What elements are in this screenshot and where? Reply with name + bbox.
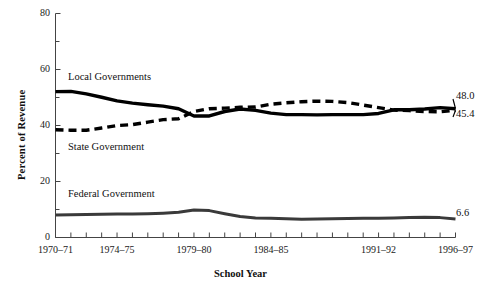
- chart-container: Percent of Revenue School Year 806040200…: [0, 0, 488, 293]
- data-series-lines: [56, 91, 456, 219]
- series-label-state: State Government: [68, 141, 144, 152]
- x-tick-label: 1996–97: [430, 244, 482, 255]
- axis-lines: [56, 14, 456, 238]
- end-value-federal: 6.6: [456, 207, 469, 218]
- y-axis-title: Percent of Revenue: [16, 90, 27, 180]
- end-value-local: 48.0: [456, 90, 474, 101]
- y-tick-label: 0: [24, 231, 50, 242]
- x-tick-label: 1991–92: [353, 244, 405, 255]
- y-tick-label: 80: [24, 7, 50, 18]
- y-tick-label: 40: [24, 119, 50, 130]
- y-tick-label: 60: [24, 63, 50, 74]
- x-tick-label: 1979–80: [168, 244, 220, 255]
- series-label-local: Local Governments: [68, 71, 151, 82]
- y-tick-label: 20: [24, 175, 50, 186]
- x-tick-label: 1984–85: [245, 244, 297, 255]
- series-line-local-governments: [56, 91, 456, 116]
- x-axis-title: School Year: [214, 268, 267, 279]
- series-line-federal-government: [56, 210, 456, 219]
- tick-marks: [56, 14, 456, 238]
- series-line-state-government: [56, 101, 456, 130]
- x-tick-label: 1974–75: [91, 244, 143, 255]
- x-tick-label: 1970–71: [30, 244, 82, 255]
- series-label-federal: Federal Government: [68, 188, 155, 199]
- end-value-state: 45.4: [456, 108, 474, 119]
